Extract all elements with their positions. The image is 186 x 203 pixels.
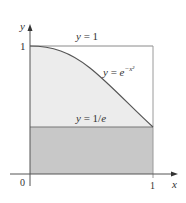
x-axis-label: x <box>171 178 177 190</box>
origin-label: 0 <box>20 177 25 188</box>
curve-exponent: −x² <box>125 65 136 73</box>
curve-label: y = e−x² <box>102 65 135 78</box>
top-line-label: y = 1 <box>75 30 98 42</box>
y-tick-label: 1 <box>20 40 26 52</box>
x-axis-arrow-icon <box>171 172 178 177</box>
y-axis-label: y <box>19 20 25 32</box>
x-tick-label: 1 <box>150 180 155 191</box>
bottom-line-label: y = 1/e <box>75 112 106 124</box>
y-axis-arrow-icon <box>28 24 33 31</box>
integral-bounds-diagram: y 1 0 1 x y = 1 y = e−x² y = 1/e <box>0 0 186 203</box>
lower-region <box>30 127 153 174</box>
